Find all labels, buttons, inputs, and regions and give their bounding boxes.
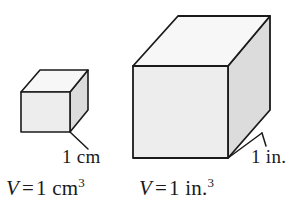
- large-cube: [133, 16, 270, 158]
- large-cube-front-face: [133, 66, 228, 158]
- large-cube-volume-label: V=1 in.3: [139, 178, 214, 199]
- volume-exponent-in: 3: [207, 175, 214, 190]
- volume-equals-cm: =: [20, 176, 36, 200]
- volume-equals-in: =: [153, 176, 169, 200]
- small-cube: [21, 70, 88, 149]
- unit-cube-comparison-figure: 1 cm 1 in. V=1 cm3 V=1 in.3: [0, 0, 287, 210]
- small-cube-front-face: [21, 92, 70, 132]
- volume-variable-in: V: [139, 176, 153, 200]
- volume-value-in: 1 in.: [169, 176, 207, 200]
- large-cube-dimension-label: 1 in.: [251, 147, 286, 166]
- small-cube-dimension-label: 1 cm: [62, 147, 101, 166]
- volume-exponent-cm: 3: [78, 175, 85, 190]
- small-cube-volume-label: V=1 cm3: [6, 178, 85, 199]
- volume-variable-cm: V: [6, 176, 20, 200]
- volume-value-cm: 1 cm: [36, 176, 78, 200]
- large-cube-leader-tick: [262, 133, 266, 146]
